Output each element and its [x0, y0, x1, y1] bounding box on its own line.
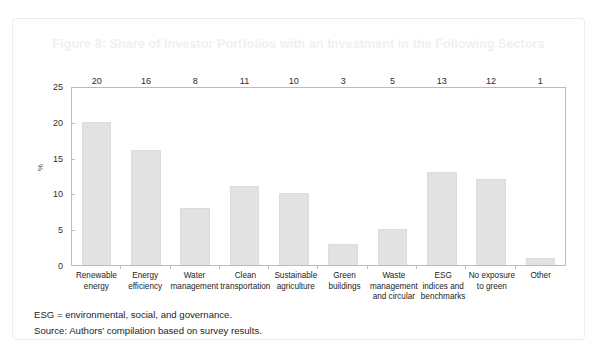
bar-value-label: 20: [72, 77, 121, 86]
bar-value-label: 13: [417, 77, 466, 86]
bar-value-label: 1: [516, 77, 565, 86]
x-axis-tick-mark: [516, 265, 565, 269]
x-axis-tick-label: Cleantransportation: [219, 271, 271, 303]
bar[interactable]: 1: [526, 258, 556, 265]
x-axis-tick-label-line: energy: [84, 282, 109, 291]
footnote-line: ESG = environmental, social, and governa…: [34, 307, 574, 323]
y-axis-tick-label: 20: [53, 118, 63, 127]
x-axis-tick-mark: [466, 265, 515, 269]
y-axis-tick-label: 0: [58, 262, 63, 271]
y-axis-tick-mark: [71, 230, 75, 231]
bar-group[interactable]: 12: [466, 88, 515, 265]
bar[interactable]: 3: [328, 244, 358, 265]
bar-group[interactable]: 8: [171, 88, 220, 265]
bar-value-label: 10: [269, 77, 318, 86]
footnote-line: Source: Authors’ compilation based on su…: [34, 323, 574, 339]
x-axis-tick-label-line: Water: [184, 271, 206, 280]
x-axis-tick-label: Renewableenergy: [72, 271, 121, 303]
x-axis-tick-label-line: agriculture: [277, 282, 315, 291]
x-axis-tick-label-line: Sustainable: [274, 271, 317, 280]
x-axis-tick-label: ESGindices andbenchmarks: [419, 271, 468, 303]
y-axis-tick-label: 15: [53, 154, 63, 163]
bar-group[interactable]: 5: [368, 88, 417, 265]
bar-group[interactable]: 20: [72, 88, 121, 265]
y-axis-tick-mark: [71, 123, 75, 124]
x-axis-tick-label: Greenbuildings: [320, 271, 369, 303]
y-axis-tick-label: 25: [53, 83, 63, 92]
x-axis-tick-label: Wastemanagementand circular: [369, 271, 419, 303]
bar-value-label: 11: [220, 77, 269, 86]
x-axis-tick-mark: [417, 265, 466, 269]
x-axis-tick-label-line: efficiency: [128, 282, 162, 291]
x-axis-tick-mark: [368, 265, 417, 269]
x-axis-tick-mark: [318, 265, 367, 269]
bar-group[interactable]: 11: [220, 88, 269, 265]
x-axis-tick-label-line: ESG: [434, 271, 451, 280]
bar-value-label: 3: [318, 77, 367, 86]
bar-value-label: 12: [466, 77, 515, 86]
x-axis-tick-label-line: Clean: [235, 271, 256, 280]
x-axis-tick-label-line: Green: [333, 271, 356, 280]
x-axis-tick-mark: [121, 265, 170, 269]
bars-container: 2016811103513121: [72, 88, 565, 265]
x-axis-tick-label: No exposureto green: [468, 271, 517, 303]
x-axis-tick-mark: [72, 265, 121, 269]
x-axis-tick-label-line: Energy: [132, 271, 158, 280]
y-axis-tick-label: 10: [53, 190, 63, 199]
bar[interactable]: 20: [82, 122, 112, 265]
bar-group[interactable]: 10: [269, 88, 318, 265]
x-axis-tick-label-line: buildings: [328, 282, 360, 291]
x-axis-tick-label: Sustainableagriculture: [271, 271, 320, 303]
x-axis-tick-mark: [220, 265, 269, 269]
bar[interactable]: 16: [131, 150, 161, 265]
bar-chart: % 0510152025 2016811103513121 Renewablee…: [27, 65, 572, 280]
x-axis-tick-label: Watermanagement: [170, 271, 220, 303]
bar-value-label: 16: [121, 77, 170, 86]
x-axis-tick-label-line: and circular: [373, 292, 415, 301]
figure-card: Figure 8: Share of Investor Portfolios w…: [12, 18, 585, 340]
bar[interactable]: 5: [378, 229, 408, 265]
footnotes: ESG = environmental, social, and governa…: [34, 307, 574, 338]
page-title: Figure 8: Share of Investor Portfolios w…: [13, 37, 584, 51]
x-axis-tick-label-line: indices and: [422, 282, 463, 291]
bar[interactable]: 10: [279, 193, 309, 265]
bar[interactable]: 12: [476, 179, 506, 265]
x-axis-tick-label-line: Other: [530, 271, 550, 280]
bar-group[interactable]: 13: [417, 88, 466, 265]
bar-group[interactable]: 16: [121, 88, 170, 265]
x-axis-tick-label-line: management: [370, 282, 418, 291]
x-axis-tick-label-line: to green: [477, 282, 507, 291]
y-axis-tick-mark: [71, 159, 75, 160]
x-axis-tick-label-line: benchmarks: [421, 292, 466, 301]
bar-value-label: 5: [368, 77, 417, 86]
x-axis-tick-labels: RenewableenergyEnergyefficiencyWatermana…: [72, 271, 565, 303]
x-axis-tick-label-line: transportation: [220, 282, 270, 291]
bar-value-label: 8: [171, 77, 220, 86]
bar[interactable]: 13: [427, 172, 457, 265]
bar[interactable]: 11: [230, 186, 260, 265]
bar-group[interactable]: 1: [516, 88, 565, 265]
x-axis-tick-label: Energyefficiency: [121, 271, 170, 303]
y-axis-tick-labels: 0510152025: [27, 87, 67, 266]
x-axis-tick-label-line: Renewable: [76, 271, 117, 280]
x-axis-tick-mark: [171, 265, 220, 269]
x-axis-tick-label: Other: [516, 271, 565, 303]
x-axis-tick-label-line: No exposure: [469, 271, 515, 280]
x-axis-tick-mark: [269, 265, 318, 269]
x-axis-tick-label-line: management: [171, 282, 219, 291]
bar-group[interactable]: 3: [318, 88, 367, 265]
y-axis-tick-mark: [71, 194, 75, 195]
y-axis-tick-label: 5: [58, 226, 63, 235]
bar[interactable]: 8: [180, 208, 210, 265]
x-axis-tick-label-line: Waste: [382, 271, 405, 280]
x-axis-tick-marks: [72, 265, 565, 269]
